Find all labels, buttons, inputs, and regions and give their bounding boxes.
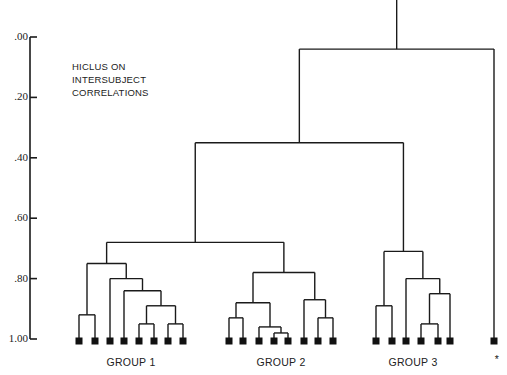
leaf-marker: [180, 338, 187, 345]
y-axis: [30, 37, 37, 339]
chart-title-line-2: INTERSUBJECT: [72, 73, 149, 86]
y-tick-label-40: .40: [4, 151, 28, 163]
leaf-marker: [165, 338, 172, 345]
leaf-marker: [240, 338, 247, 345]
leaf-marker: [271, 338, 278, 345]
leaf-marker: [136, 338, 143, 345]
y-tick-label-20: .20: [4, 90, 28, 102]
y-tick-label-0: .00: [4, 30, 28, 42]
leaf-marker: [301, 338, 308, 345]
chart-title-line-3: CORRELATIONS: [72, 86, 149, 99]
outlier-label: *: [495, 353, 499, 365]
group-1-label: GROUP 1: [106, 356, 155, 368]
y-tick-label-60: .60: [4, 211, 28, 223]
leaf-marker: [256, 338, 263, 345]
leaf-marker: [226, 338, 233, 345]
leaf-marker: [403, 338, 410, 345]
chart-title: HICLUS ON INTERSUBJECT CORRELATIONS: [72, 60, 149, 99]
leaf-marker: [76, 338, 83, 345]
leaf-marker: [330, 338, 337, 345]
leaf-marker: [315, 338, 322, 345]
leaf-marker: [151, 338, 158, 345]
leaf-marker: [447, 338, 454, 345]
leaf-marker: [491, 338, 498, 345]
leaf-marker: [121, 338, 128, 345]
group-2-label: GROUP 2: [256, 356, 305, 368]
leaf-marker: [389, 338, 396, 345]
leaf-marker: [373, 338, 380, 345]
leaf-marker: [435, 338, 442, 345]
leaf-marker: [285, 338, 292, 345]
dendrogram-chart: [0, 0, 507, 375]
y-tick-label-80: .80: [4, 272, 28, 284]
leaf-marker: [418, 338, 425, 345]
group-3-label: GROUP 3: [388, 356, 437, 368]
leaf-marker: [92, 338, 99, 345]
chart-title-line-1: HICLUS ON: [72, 60, 149, 73]
y-tick-label-100: 1.00: [4, 332, 28, 344]
leaf-markers: [76, 338, 498, 345]
leaf-marker: [107, 338, 114, 345]
dendrogram-tree: [79, 0, 494, 341]
